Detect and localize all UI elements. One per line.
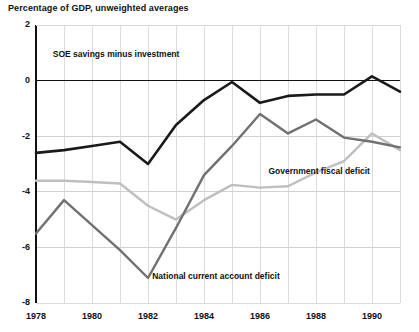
x-tick-label: 1978	[26, 311, 46, 321]
x-tick-label: 1982	[138, 311, 158, 321]
series-line	[36, 76, 400, 164]
series-label: Government fiscal deficit	[268, 166, 370, 176]
vertical-gridlines	[64, 25, 400, 303]
y-tick-label: 0	[25, 75, 30, 85]
x-tick-label: 1980	[82, 311, 102, 321]
y-tick-label: -2	[22, 131, 30, 141]
y-axis-tick-labels: 20-2-4-6-8	[22, 19, 30, 307]
chart-plot-area: 20-2-4-6-8 1978198019821984198619881990 …	[0, 0, 419, 332]
x-tick-label: 1986	[250, 311, 270, 321]
y-tick-label: -4	[22, 186, 30, 196]
x-tick-label: 1990	[362, 311, 382, 321]
series-annotations: SOE savings minus investmentGovernment f…	[53, 49, 370, 281]
y-tick-label: -6	[22, 242, 30, 252]
y-tick-label: 2	[25, 19, 30, 29]
x-tick-label: 1984	[194, 311, 214, 321]
chart-container: Percentage of GDP, unweighted averages 2…	[0, 0, 419, 332]
axis-lines	[36, 25, 400, 303]
series-label: National current account deficit	[152, 271, 280, 281]
series-label: SOE savings minus investment	[53, 49, 180, 59]
x-tick-label: 1988	[306, 311, 326, 321]
series-line	[36, 114, 400, 278]
x-axis-tick-labels: 1978198019821984198619881990	[26, 311, 382, 321]
horizontal-gridlines	[36, 25, 400, 303]
y-tick-label: -8	[22, 297, 30, 307]
